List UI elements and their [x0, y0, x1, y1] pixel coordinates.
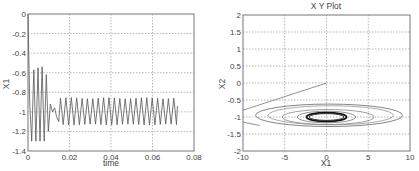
y-tick-label: 1: [237, 45, 242, 54]
xy-plot-yticks: 21.510.50-0.5-1-1.5-2: [227, 11, 241, 156]
xy-plot-ylabel: X2: [217, 79, 227, 90]
y-tick-label: -1: [19, 108, 27, 117]
time-plot: 0-0.2-0.4-0.6-0.8-1-1.2-1.4 00.020.040.0…: [1, 10, 202, 168]
y-tick-label: -1.4: [12, 147, 26, 156]
x-tick-label: 0.08: [186, 153, 202, 162]
x-tick-label: -10: [237, 153, 249, 162]
x-tick-label: 0: [26, 153, 31, 162]
x-tick-label: 0.02: [62, 153, 78, 162]
y-tick-label: 0: [22, 10, 27, 19]
xy-plot: X Y Plot 21.510.50-0.5-1-1.5-2 -10-50510…: [217, 1, 415, 168]
y-tick-label: 0.5: [230, 62, 242, 71]
time-plot-xlabel: time: [103, 158, 119, 168]
x-tick-label: 10: [406, 153, 415, 162]
time-plot-axes: [28, 14, 194, 151]
xy-plot-title: X Y Plot: [311, 1, 342, 11]
y-tick-label: -0.6: [12, 69, 26, 78]
y-tick-label: -1.5: [227, 130, 241, 139]
x-tick-label: -5: [281, 153, 289, 162]
y-tick-label: 0: [237, 79, 242, 88]
y-tick-label: 2: [237, 11, 242, 20]
y-tick-label: -0.4: [12, 49, 26, 58]
time-plot-ylabel: X1: [1, 79, 11, 90]
figure: 0-0.2-0.4-0.6-0.8-1-1.2-1.4 00.020.040.0…: [0, 0, 419, 171]
y-tick-label: -0.8: [12, 88, 26, 97]
xy-plot-xlabel: X1: [321, 158, 332, 168]
y-tick-label: -1.2: [12, 127, 26, 136]
time-plot-yticks: 0-0.2-0.4-0.6-0.8-1-1.2-1.4: [12, 10, 26, 156]
y-tick-label: 1.5: [230, 28, 242, 37]
x-tick-label: 5: [366, 153, 371, 162]
y-tick-label: -1: [234, 113, 242, 122]
y-tick-label: -0.2: [12, 30, 26, 39]
x-tick-label: 0.06: [145, 153, 161, 162]
y-tick-label: -0.5: [227, 96, 241, 105]
